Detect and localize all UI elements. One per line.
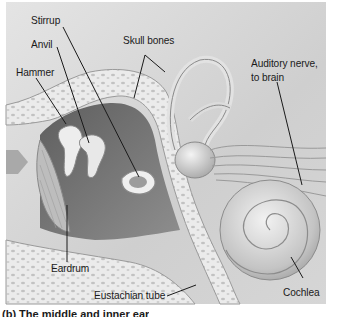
label-hammer: Hammer (16, 66, 54, 78)
label-skull-bones: Skull bones (123, 34, 174, 46)
label-eardrum: Eardrum (51, 262, 89, 274)
label-auditory-nerve-line1: Auditory nerve, (251, 57, 318, 69)
label-auditory-nerve-line2: to brain (251, 71, 284, 83)
ear-anatomy-figure: Stirrup Anvil Hammer Skull bones Auditor… (0, 0, 341, 317)
label-anvil: Anvil (31, 38, 52, 50)
label-eustachian-tube: Eustachian tube (94, 289, 165, 301)
label-stirrup: Stirrup (31, 14, 60, 26)
label-cochlea: Cochlea (283, 286, 319, 298)
stirrup-opening (129, 176, 147, 188)
vestibule (175, 142, 215, 178)
figure-caption: (b) The middle and inner ear (2, 308, 149, 317)
